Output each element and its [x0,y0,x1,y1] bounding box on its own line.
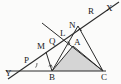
point-label-Y: Y [5,69,12,78]
point-label-M: M [37,42,45,51]
point-label-B: B [49,73,55,82]
point-label-N: N [69,21,76,30]
segment-B-to-M-perpendicular [46,52,52,71]
point-label-P: P [24,56,29,65]
geometry-figure: X R N L Q A M P Y B C [0,0,121,84]
point-label-X: X [106,4,113,13]
angle-arc-at-P [36,63,37,68]
point-label-L: L [60,29,66,38]
point-label-Q: Q [49,37,56,46]
point-label-R: R [88,7,94,16]
point-label-C: C [101,73,107,82]
point-label-A: A [74,38,81,47]
